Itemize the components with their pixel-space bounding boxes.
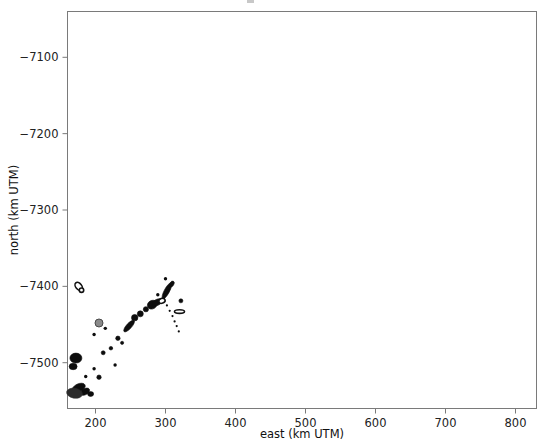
scatter-plot: −7100−7200−7300−7400−7500 20030040050060…: [0, 0, 559, 445]
x-tick-label: 400: [225, 416, 247, 430]
data-blob: [97, 375, 101, 379]
data-blob: [179, 299, 183, 303]
scatter-dot: [84, 375, 87, 378]
dotted-branch-layer: [166, 304, 180, 332]
data-blob: [137, 311, 143, 317]
x-tick-label: 200: [85, 416, 107, 430]
scatter-dot: [113, 363, 116, 366]
scatter-dot: [92, 333, 95, 336]
data-blob: [121, 341, 124, 344]
branch-dot: [166, 304, 168, 306]
scatter-dot: [164, 277, 167, 280]
data-blob: [116, 336, 120, 340]
top-crop-artifact: [247, 0, 254, 3]
x-axis-label: east (km UTM): [260, 427, 344, 441]
y-tick-label: −7500: [20, 356, 59, 370]
data-blob: [69, 363, 77, 369]
data-blob: [132, 314, 138, 320]
data-blob: [175, 310, 185, 314]
y-tick-label: −7200: [20, 127, 59, 141]
data-blob: [79, 288, 83, 292]
data-blob: [88, 392, 94, 397]
plot-frame: [68, 12, 537, 409]
y-tick-label: −7300: [20, 203, 59, 217]
x-tick-label: 300: [155, 416, 177, 430]
branch-dot: [178, 330, 180, 332]
y-axis-label: north (km UTM): [7, 165, 21, 255]
scatter-dot: [92, 367, 95, 370]
branch-dot: [176, 325, 178, 327]
branch-dot: [171, 315, 173, 317]
y-tick-label: −7400: [20, 279, 59, 293]
figure-panel: −7100−7200−7300−7400−7500 20030040050060…: [0, 0, 559, 445]
scatter-dot: [104, 327, 107, 330]
data-blob: [95, 319, 103, 327]
data-blob: [101, 351, 105, 355]
x-tick-label: 700: [435, 416, 457, 430]
branch-dot: [174, 320, 176, 322]
scatter-dot: [156, 293, 159, 296]
data-blobs: [66, 280, 185, 399]
data-blob: [70, 353, 82, 363]
data-blob: [109, 346, 113, 350]
x-tick-label: 600: [365, 416, 387, 430]
x-tick-label: 800: [505, 416, 527, 430]
y-tick-label: −7100: [20, 50, 59, 64]
y-tick-group: −7100−7200−7300−7400−7500: [20, 50, 68, 369]
branch-dot: [169, 310, 171, 312]
